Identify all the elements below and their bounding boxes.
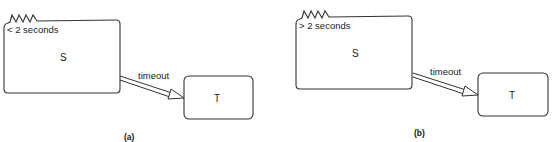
state-t-label-b: T [509,90,515,101]
caption-a: (a) [124,132,135,142]
transition-label-a: timeout [138,70,170,81]
statechart-figure: < 2 seconds S T timeout (a) > 2 seconds … [0,0,555,142]
time-annotation-b: > 2 seconds [299,20,351,31]
caption-b: (b) [414,128,425,138]
state-s-label-b: S [352,48,359,59]
state-t-label-a: T [214,93,220,104]
diagram-b: > 2 seconds S T timeout (b) [296,11,548,138]
diagram-a: < 2 seconds S T timeout (a) [4,15,253,142]
state-s-label-a: S [60,52,67,63]
time-annotation-a: < 2 seconds [7,24,59,35]
transition-label-b: timeout [430,66,462,77]
